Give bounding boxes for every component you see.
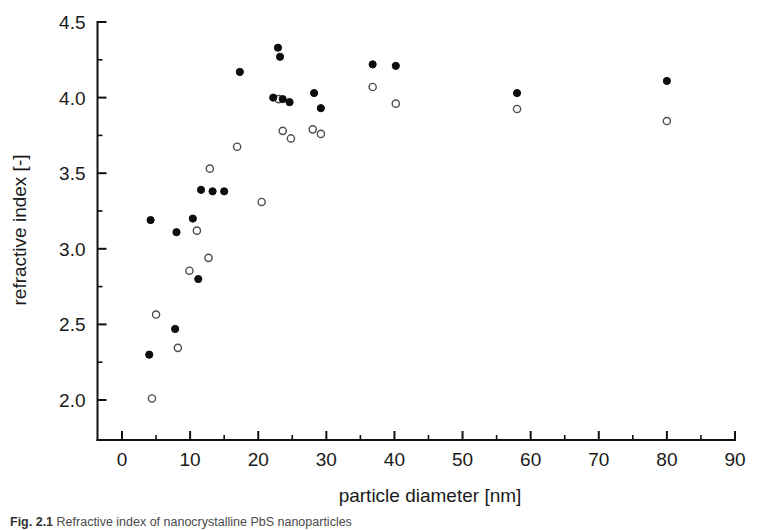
tick-labels-group: 01020304050607080902.02.53.03.54.04.5 — [59, 12, 745, 470]
x-tick-label: 30 — [316, 449, 337, 470]
data-point-filled — [195, 275, 202, 282]
data-point-filled — [270, 94, 277, 101]
data-point-open — [309, 126, 316, 133]
data-point-filled — [513, 89, 520, 96]
data-point-filled — [276, 53, 283, 60]
data-point-filled — [310, 89, 317, 96]
data-point-filled — [209, 188, 216, 195]
data-point-open — [152, 311, 159, 318]
figure-caption-body: Refractive index of nanocrystalline PbS … — [57, 515, 352, 529]
x-tick-label: 60 — [520, 449, 541, 470]
data-point-open — [392, 100, 399, 107]
y-tick-label: 4.5 — [59, 12, 85, 33]
data-point-open — [663, 117, 670, 124]
scatter-plot: 01020304050607080902.02.53.03.54.04.5 pa… — [0, 0, 767, 530]
x-tick-label: 50 — [452, 449, 473, 470]
data-point-open — [234, 143, 241, 150]
data-point-open — [174, 344, 181, 351]
x-tick-label: 80 — [656, 449, 677, 470]
x-tick-label: 20 — [248, 449, 269, 470]
data-point-filled — [147, 216, 154, 223]
data-point-open — [193, 227, 200, 234]
figure-caption: Fig. 2.1 Refractive index of nanocrystal… — [0, 514, 767, 530]
data-point-filled — [172, 325, 179, 332]
figure-caption-label: Fig. 2.1 — [10, 515, 53, 529]
data-point-open — [513, 105, 520, 112]
data-point-filled — [221, 188, 228, 195]
data-point-open — [317, 130, 324, 137]
x-axis-title: particle diameter [nm] — [339, 485, 522, 506]
y-tick-label: 4.0 — [59, 88, 85, 109]
y-axis-title: refractive index [-] — [9, 155, 30, 306]
data-point-open — [148, 395, 155, 402]
data-point-filled — [392, 62, 399, 69]
data-point-filled — [279, 96, 286, 103]
data-point-filled — [286, 99, 293, 106]
data-point-filled — [317, 105, 324, 112]
y-tick-label: 3.5 — [59, 163, 85, 184]
data-points-group — [146, 44, 671, 402]
data-point-open — [205, 254, 212, 261]
x-tick-label: 10 — [180, 449, 201, 470]
data-point-open — [258, 198, 265, 205]
y-tick-label: 2.5 — [59, 314, 85, 335]
x-tick-label: 0 — [117, 449, 128, 470]
data-point-filled — [663, 77, 670, 84]
data-point-filled — [189, 215, 196, 222]
x-tick-label: 40 — [384, 449, 405, 470]
data-point-filled — [197, 186, 204, 193]
data-point-filled — [173, 229, 180, 236]
x-tick-label: 70 — [588, 449, 609, 470]
figure-caption-line: Fig. 2.1 Refractive index of nanocrystal… — [0, 514, 767, 530]
figure-panel: 01020304050607080902.02.53.03.54.04.5 pa… — [0, 0, 767, 530]
data-point-open — [206, 165, 213, 172]
data-point-filled — [369, 61, 376, 68]
y-tick-label: 3.0 — [59, 239, 85, 260]
data-point-open — [287, 135, 294, 142]
data-point-open — [369, 83, 376, 90]
data-point-filled — [236, 68, 243, 75]
data-point-open — [186, 267, 193, 274]
data-point-filled — [274, 44, 281, 51]
x-tick-label: 90 — [724, 449, 745, 470]
y-tick-label: 2.0 — [59, 390, 85, 411]
data-point-open — [279, 127, 286, 134]
data-point-filled — [146, 351, 153, 358]
